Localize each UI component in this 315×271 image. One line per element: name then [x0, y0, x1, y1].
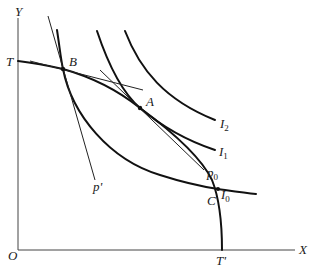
point-b-marker [61, 67, 65, 71]
frontier-end-label-t-prime: T' [216, 253, 226, 268]
point-c-label: C [207, 193, 216, 208]
ppf-diagram: Y X O T T' B A C I2 I1 I0 p0 p' [0, 0, 315, 271]
p0-label: p0 [206, 165, 219, 182]
price-line-p-prime [48, 16, 95, 180]
i1-label: I1 [218, 144, 228, 161]
i2-label: I2 [219, 116, 229, 133]
origin-label: O [8, 248, 18, 263]
point-c-marker [216, 187, 220, 191]
indifference-curve-i0 [57, 30, 256, 194]
p-prime-label: p' [92, 179, 103, 194]
price-line-p0 [100, 70, 204, 170]
point-a-label: A [145, 94, 154, 109]
y-axis-label: Y [15, 4, 24, 19]
point-b-label: B [69, 54, 77, 69]
point-a-marker [138, 106, 142, 110]
x-axis-label: X [298, 242, 308, 257]
frontier-start-label-t: T [6, 54, 14, 69]
tangent-line-at-b [30, 61, 143, 90]
